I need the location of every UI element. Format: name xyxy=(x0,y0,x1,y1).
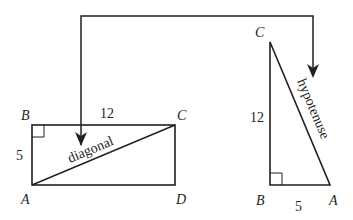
right-angle-mark-b xyxy=(32,125,44,137)
rect-vertex-c: C xyxy=(177,108,187,123)
rect-side-top-label: 12 xyxy=(100,106,114,121)
rect-vertex-d: D xyxy=(175,192,186,207)
tri-vertex-a: A xyxy=(328,193,338,208)
tri-side-vertical-label: 12 xyxy=(250,110,264,125)
tri-vertex-b: B xyxy=(256,193,265,208)
diagram: B C A D 12 5 diagonal C B A 12 5 hypoten… xyxy=(0,0,353,220)
hypotenuse-label: hypotenuse xyxy=(294,76,333,141)
rect-side-left-label: 5 xyxy=(16,148,23,163)
rect-vertex-a: A xyxy=(20,192,30,207)
tri-vertex-c: C xyxy=(255,25,265,40)
rect-vertex-b: B xyxy=(21,108,30,123)
tri-side-bottom-label: 5 xyxy=(295,199,302,214)
rectangle-diagonal xyxy=(32,125,175,185)
right-angle-mark-b2 xyxy=(270,173,282,185)
